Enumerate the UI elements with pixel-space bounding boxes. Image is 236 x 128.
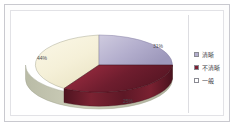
legend-label-qingxi: 清晰	[202, 52, 214, 58]
legend-item-buqingxi[interactable]: 不清晰	[194, 62, 236, 73]
legend-swatch-icon-yiban	[194, 78, 199, 83]
legend-label-yiban: 一般	[202, 78, 214, 84]
legend-swatch-icon-qingxi	[194, 52, 199, 57]
chart-frame: 31% 25% 44% 清晰 不清晰 一般	[4, 4, 230, 122]
data-label-qingxi: 31%	[153, 44, 163, 49]
legend-swatch-icon-buqingxi	[194, 65, 199, 70]
pie-chart-plot-area: 31% 25% 44%	[11, 11, 183, 117]
data-label-yiban: 44%	[37, 56, 47, 61]
chart-legend: 清晰 不清晰 一般	[194, 49, 236, 88]
pie-slice-qingxi[interactable]	[99, 35, 173, 65]
legend-label-buqingxi: 不清晰	[202, 65, 220, 71]
chart-plot-frame: 31% 25% 44% 清晰 不清晰 一般	[10, 10, 224, 116]
pie-chart-svg	[17, 19, 181, 111]
data-label-buqingxi: 25%	[123, 99, 133, 104]
legend-item-qingxi[interactable]: 清晰	[194, 49, 236, 60]
legend-item-yiban[interactable]: 一般	[194, 75, 236, 86]
legend-divider	[188, 15, 189, 113]
